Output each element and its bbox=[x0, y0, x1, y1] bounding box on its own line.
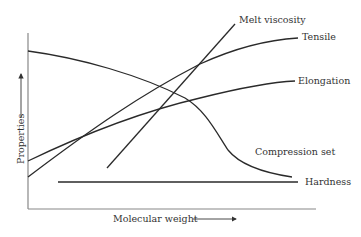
melt-viscosity-label: Melt viscosity bbox=[239, 14, 306, 25]
compression-set-curve bbox=[28, 51, 292, 177]
melt-viscosity-curve bbox=[107, 24, 235, 168]
y-axis-title: Properties bbox=[15, 114, 26, 164]
x-axis-title: Molecular weight bbox=[113, 213, 198, 224]
properties-vs-molecular-weight-diagram: Melt viscosity Tensile Elongation Compre… bbox=[0, 0, 361, 237]
elongation-label: Elongation bbox=[298, 75, 350, 86]
hardness-label: Hardness bbox=[305, 176, 351, 187]
compression-set-label: Compression set bbox=[255, 146, 335, 157]
tensile-label: Tensile bbox=[302, 31, 336, 42]
